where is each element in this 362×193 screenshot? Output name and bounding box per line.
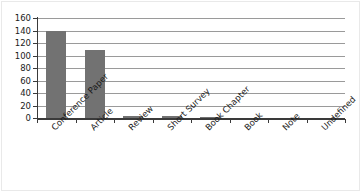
gridline [37, 56, 345, 57]
y-tick-label: 0 [26, 114, 31, 123]
y-tick-label: 120 [15, 39, 31, 48]
x-tick-mark [345, 119, 346, 123]
y-tick-label: 140 [15, 26, 31, 35]
x-tick-mark [191, 119, 192, 123]
y-tick-label: 80 [20, 64, 31, 73]
y-axis-line [37, 17, 38, 119]
x-tick-mark [114, 119, 115, 123]
x-tick-mark [268, 119, 269, 123]
y-tick-label: 40 [20, 89, 31, 98]
y-tick-label: 60 [20, 76, 31, 85]
bar [46, 31, 66, 119]
bar-chart: 020406080100120140160 Conference PaperAr… [0, 0, 362, 193]
x-tick-mark [76, 119, 77, 123]
gridline [37, 43, 345, 44]
y-tick-label: 100 [15, 51, 31, 60]
gridline [37, 68, 345, 69]
x-tick-mark [230, 119, 231, 123]
x-tick-mark [153, 119, 154, 123]
y-tick-label: 20 [20, 101, 31, 110]
gridline [37, 81, 345, 82]
gridline [37, 31, 345, 32]
x-tick-mark [37, 119, 38, 123]
y-tick-label: 160 [15, 14, 31, 23]
gridline [37, 18, 345, 19]
x-tick-mark [307, 119, 308, 123]
